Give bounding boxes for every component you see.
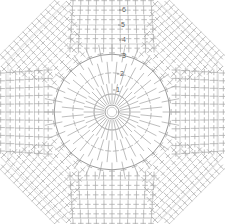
round-number-label-6: 6 [122,6,126,13]
round-number-label-5: 5 [121,21,125,28]
round-number-label-4: 4 [122,36,126,43]
round-number-label-3: 3 [122,52,126,59]
crochet-chart-root: 123456 [0,0,225,224]
round-number-label-1: 1 [116,86,120,93]
crochet-motif-diagram: 123456 [0,0,225,224]
round-number-label-2: 2 [120,70,124,77]
